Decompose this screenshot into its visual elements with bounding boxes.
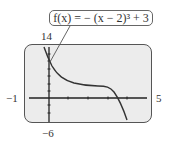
axis-ticks bbox=[48, 54, 128, 113]
y-max-label: 14 bbox=[41, 31, 52, 42]
x-max-label: 5 bbox=[156, 93, 162, 104]
y-min-label: −6 bbox=[42, 128, 54, 139]
function-curve bbox=[44, 47, 127, 120]
function-label-callout: f(x) = − (x − 2)³ + 3 bbox=[49, 10, 153, 26]
callout-leader bbox=[50, 26, 70, 62]
x-min-label: −1 bbox=[6, 93, 18, 104]
